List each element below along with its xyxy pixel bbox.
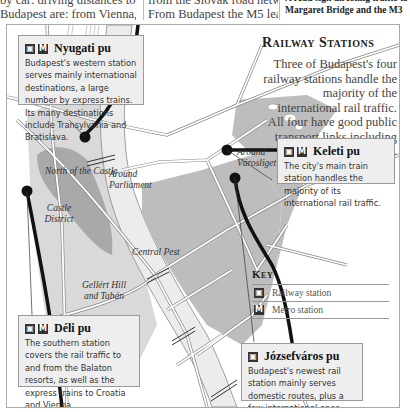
railway-station-icon: ▣ [248,352,258,362]
key-item: ▣ Railway station [252,285,389,302]
station-name: Józsefváros pu [264,349,339,364]
top-text-line: Budapest are: from Vienna, [0,7,136,20]
station-box-keleti: ▣ M Keleti pu The city's main train stat… [277,138,395,184]
district-label-north-of-castle: North of the Castle [45,166,118,177]
page-top-strip: by car: driving distances to Budapest ar… [0,0,404,22]
station-description: Budapest's western station serves mainly… [25,57,137,144]
top-text-line: From Budapest the M5 leads [148,7,278,20]
key-item: M Metro station [252,302,389,319]
district-label-castle-district: Castle District [39,203,79,225]
key-label: Metro station [272,305,323,315]
district-label-central-pest: Central Pest [132,247,212,258]
district-label-around-parliament: Around Parliament [109,169,169,191]
station-description: The southern station covers the rail tra… [25,337,133,408]
top-text-column-1: by car: driving distances to Budapest ar… [0,0,136,20]
top-text-column-2: from the Slovak road network. From Budap… [143,0,278,20]
metro-station-icon: M [297,147,307,157]
station-description: The city's main train station handles th… [284,160,388,210]
top-text-line: from the Slovak road network. [148,0,278,7]
key-label: Railway station [272,288,331,298]
metro-station-icon: M [38,44,48,54]
key-title: Key [252,268,389,285]
metro-station-icon: M [38,324,48,334]
metro-station-icon: M [254,305,264,315]
station-name: Nyugati pu [54,41,111,56]
top-text-line: Margaret Bridge and the M3 [285,4,408,16]
railway-station-icon: ▣ [284,147,294,157]
top-text-column-3: A road sign directing traffic to Margare… [279,0,410,20]
station-name: Déli pu [54,321,91,336]
top-text-line: by car: driving distances to [0,0,136,7]
railway-station-icon: ▣ [25,44,35,54]
station-box-deli: ▣ M Déli pu The southern station covers … [18,315,140,387]
station-description: Budapest's newest rail station mainly se… [248,365,356,408]
station-name: Keleti pu [313,144,360,159]
panel-title: Railway Stations [262,35,397,51]
railway-station-icon: ▣ [25,324,35,334]
station-box-jozsefvaros: ▣ Józsefváros pu Budapest's newest rail … [241,343,363,401]
district-label-gellert-hill: Gellért Hill and Tabán [74,280,134,302]
map-key: Key ▣ Railway station M Metro station [252,268,389,319]
railway-station-icon: ▣ [254,288,264,298]
station-box-nyugati: ▣ M Nyugati pu Budapest's western statio… [18,35,144,105]
map-frame: North of the Castle Castle District Arou… [6,24,400,408]
